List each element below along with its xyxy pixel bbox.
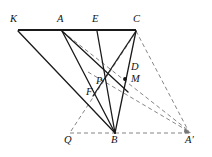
geometry-canvas	[0, 0, 212, 157]
label-K: K	[10, 14, 17, 25]
label-A: A	[57, 14, 63, 25]
solid-lines-group	[18, 31, 136, 133]
label-B: B	[111, 135, 117, 146]
label-D: D	[131, 62, 139, 73]
segment-A-B	[62, 31, 115, 133]
label-M: M	[131, 74, 140, 85]
arrowheads-group	[184, 129, 191, 134]
dot-M	[123, 77, 127, 81]
segment-C-Aprime	[136, 31, 189, 132]
label-A-prime: A′	[185, 135, 194, 146]
label-C: C	[133, 14, 140, 25]
label-P: P	[96, 76, 102, 87]
segment-A-M	[62, 31, 128, 92]
label-E: E	[92, 14, 98, 25]
label-Q: Q	[64, 135, 72, 146]
geometry-figure: K A E C D M P F Q B A′	[0, 0, 212, 157]
label-F: F	[86, 87, 92, 98]
